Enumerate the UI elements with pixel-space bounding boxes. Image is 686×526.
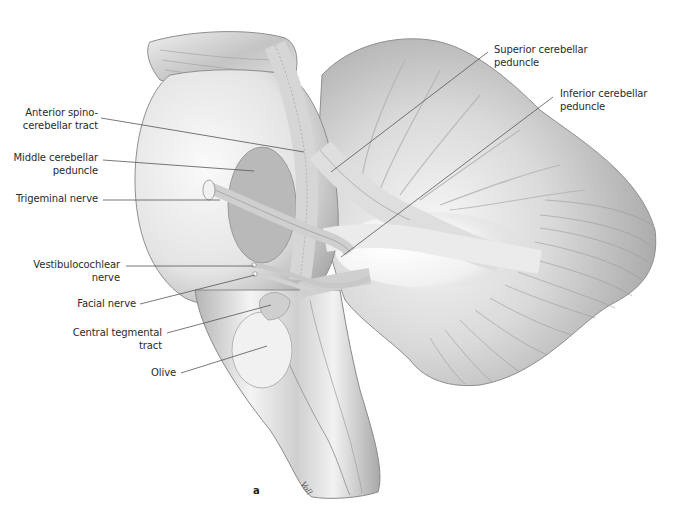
medulla-oblongata (195, 290, 380, 498)
label-inferior-cerebellar-peduncle: Inferior cerebellar peduncle (560, 88, 686, 113)
olive (232, 312, 292, 388)
cerebellum-brainstem-illustration: Voll Anterior spino- cerebellar tract Mi… (0, 0, 686, 526)
label-trigeminal-nerve: Trigeminal nerve (2, 193, 98, 206)
panel-letter: a (253, 485, 260, 496)
label-superior-cerebellar-peduncle: Superior cerebellar peduncle (494, 44, 624, 69)
label-middle-cerebellar-peduncle: Middle cerebellar peduncle (2, 152, 98, 177)
label-anterior-spinocerebellar-tract: Anterior spino- cerebellar tract (2, 107, 98, 132)
label-olive: Olive (2, 367, 176, 380)
label-central-tegmental-tract: Central tegmental tract (2, 327, 162, 352)
label-vestibulocochlear-nerve: Vestibulocochlear nerve (2, 259, 120, 284)
label-facial-nerve: Facial nerve (2, 298, 136, 311)
